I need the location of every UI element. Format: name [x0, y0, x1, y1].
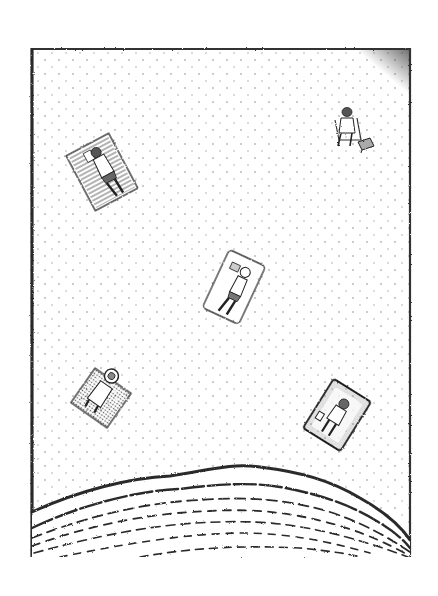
beach-scene-canvas — [0, 0, 438, 596]
